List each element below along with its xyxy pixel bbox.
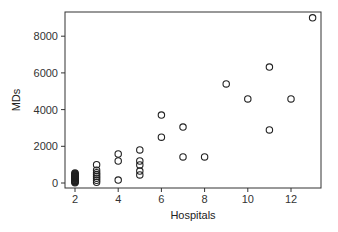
y-tick-label: 0 [52,177,58,189]
data-point [137,147,143,153]
y-tick-label: 4000 [34,104,58,116]
y-axis-title: MDs [10,88,22,111]
data-point [180,154,186,160]
x-tick-label: 12 [285,193,297,205]
data-point [158,112,164,118]
data-point [245,96,251,102]
x-axis-title: Hospitals [170,209,216,221]
data-point [288,96,294,102]
data-points [72,15,316,186]
x-tick-label: 8 [202,193,208,205]
x-tick-label: 4 [115,193,121,205]
data-point [309,15,315,21]
y-axis: 02000400060008000 [34,30,65,189]
x-tick-label: 10 [242,193,254,205]
data-point [266,64,272,70]
data-point [115,151,121,157]
data-point [266,127,272,133]
y-tick-label: 8000 [34,30,58,42]
x-tick-label: 6 [158,193,164,205]
data-point [115,177,121,183]
data-point [158,134,164,140]
data-point [180,124,186,130]
data-point [115,158,121,164]
y-tick-label: 2000 [34,140,58,152]
data-point [223,81,229,87]
scatter-chart: 02000400060008000 24681012 Hospitals MDs [0,0,338,232]
data-point [137,168,143,174]
x-axis: 24681012 [72,188,297,205]
data-point [137,158,143,164]
y-tick-label: 6000 [34,67,58,79]
data-point [201,154,207,160]
plot-frame [65,12,321,188]
x-tick-label: 2 [72,193,78,205]
